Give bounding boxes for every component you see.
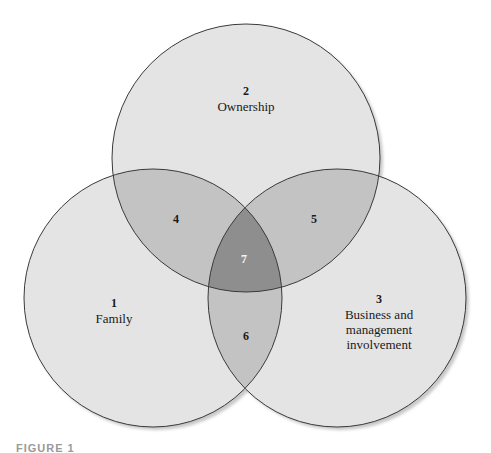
- business-number: 3: [376, 292, 382, 306]
- figure-caption: FIGURE 1: [16, 442, 75, 453]
- business-label-line1: Business and: [345, 307, 414, 322]
- family-label: Family: [96, 311, 133, 326]
- region-7-number: 7: [241, 252, 247, 266]
- business-label-line3: involvement: [347, 337, 412, 352]
- ownership-number: 2: [243, 84, 249, 98]
- ownership-label: Ownership: [217, 99, 274, 114]
- venn-diagram: 2 Ownership 1 Family 3 Business and mana…: [0, 0, 491, 453]
- region-4-number: 4: [173, 212, 179, 226]
- business-label-line2: management: [346, 322, 413, 337]
- region-6-number: 6: [243, 329, 249, 343]
- region-5-number: 5: [311, 212, 317, 226]
- family-number: 1: [111, 296, 117, 310]
